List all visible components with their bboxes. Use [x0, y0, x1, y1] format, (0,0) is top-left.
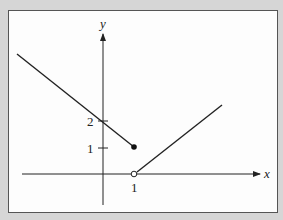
x-tick-label-1: 1 — [131, 180, 138, 195]
x-axis-label: x — [263, 166, 270, 181]
left-line-segment — [17, 54, 134, 147]
closed-endpoint — [131, 144, 137, 150]
y-axis-label: y — [98, 16, 106, 31]
right-line-segment — [137, 105, 222, 172]
open-endpoint — [131, 171, 137, 177]
piecewise-function-plot: x y 2 1 1 — [0, 0, 283, 220]
y-tick-label-2: 2 — [87, 114, 94, 129]
y-tick-label-1: 1 — [87, 141, 94, 156]
